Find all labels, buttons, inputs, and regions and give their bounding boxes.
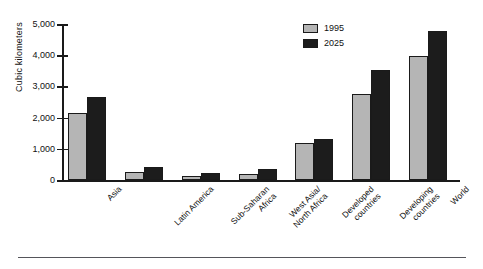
category-label-line: Latin America xyxy=(172,184,215,227)
bar-group xyxy=(119,24,176,180)
category-label-line: Asia xyxy=(105,184,124,203)
bar-1995 xyxy=(125,172,144,180)
bar-1995 xyxy=(239,174,258,180)
bar-2025 xyxy=(144,167,163,180)
bar-group xyxy=(403,24,460,180)
chart-legend: 1995 2025 xyxy=(303,22,344,52)
category-label: West Asia/North Africa xyxy=(284,184,330,230)
legend-item-2025: 2025 xyxy=(303,37,344,49)
legend-label-2025: 2025 xyxy=(324,38,344,48)
bar-2025 xyxy=(258,169,277,180)
category-label: World xyxy=(448,184,471,207)
bar-2025 xyxy=(201,173,220,180)
y-tick-label: 2,000 xyxy=(32,113,55,123)
y-tick-label: 0 xyxy=(50,175,55,185)
category-label: Developedcountries xyxy=(340,184,383,227)
bar-2025 xyxy=(371,70,390,180)
legend-item-1995: 1995 xyxy=(303,22,344,34)
bar-2025 xyxy=(87,97,106,180)
bar-1995 xyxy=(182,176,201,180)
bar-2025 xyxy=(428,31,447,180)
category-label: Asia xyxy=(105,184,124,203)
y-axis-title: Cubic kilometers xyxy=(14,2,24,112)
category-label: Latin America xyxy=(172,184,215,227)
bar-1995 xyxy=(352,94,371,180)
y-tick-label: 1,000 xyxy=(32,144,55,154)
y-tick-label: 3,000 xyxy=(32,81,55,91)
category-label: Developingcountries xyxy=(397,184,441,228)
legend-swatch-1995-icon xyxy=(303,24,318,33)
legend-label-1995: 1995 xyxy=(324,23,344,33)
y-tick-label: 4,000 xyxy=(32,50,55,60)
bar-1995 xyxy=(409,56,428,180)
bar-2025 xyxy=(314,139,333,180)
bar-group xyxy=(346,24,403,180)
bar-series-container xyxy=(62,24,460,180)
y-tick-label: 5,000 xyxy=(32,19,55,29)
legend-swatch-2025-icon xyxy=(303,39,318,48)
category-label: Sub-SaharanAfrica xyxy=(229,184,279,234)
plot-area: 01,0002,0003,0004,0005,000 xyxy=(62,24,460,180)
bar-1995 xyxy=(295,143,314,180)
category-label-line: World xyxy=(448,184,471,207)
bar-1995 xyxy=(68,113,87,180)
bar-chart-figure: Cubic kilometers 01,0002,0003,0004,0005,… xyxy=(0,0,483,269)
bar-group xyxy=(176,24,233,180)
bar-group xyxy=(233,24,290,180)
y-tick-mark xyxy=(57,180,68,182)
bar-group xyxy=(62,24,119,180)
x-axis-line xyxy=(62,180,460,182)
bottom-divider xyxy=(18,257,466,259)
